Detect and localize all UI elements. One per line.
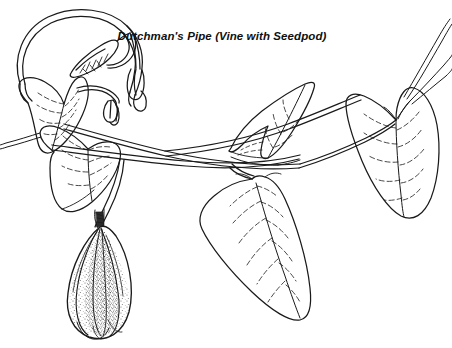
left-stem-tips: [0, 133, 41, 149]
illustration-page: Dutchman's Pipe (Vine with Seedpod): [0, 0, 452, 348]
leaf-right: [346, 88, 439, 218]
bract-pod: [70, 33, 130, 77]
flower-bud-pair: [77, 33, 144, 125]
leaf-center-lower: [200, 173, 311, 320]
botanical-illustration: [0, 0, 452, 348]
tendril-tips: [396, 19, 452, 120]
seedpod: [60, 209, 145, 345]
